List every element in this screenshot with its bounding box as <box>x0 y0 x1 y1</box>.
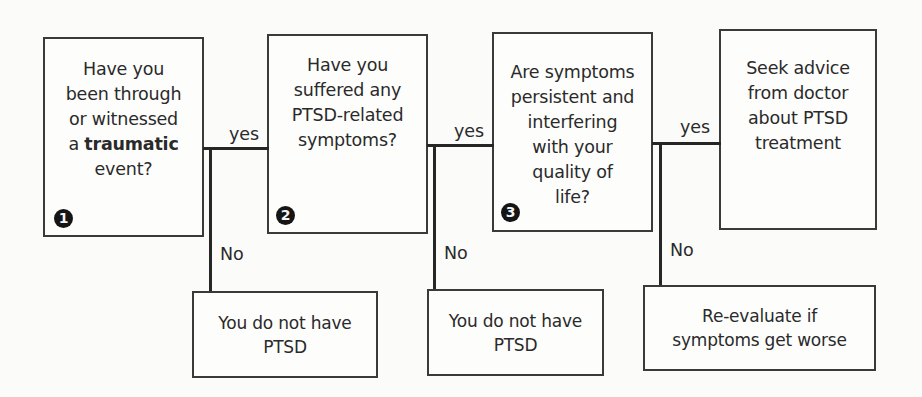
edge-label-yes-2: yes <box>454 121 484 141</box>
no-outcome-box-2: You do not have PTSD <box>427 289 604 376</box>
step-3-line-4: with your <box>510 135 634 160</box>
no-outcome-3-line-2: symptoms get worse <box>672 328 847 352</box>
no-outcome-3-line-1: Re-evaluate if <box>672 304 847 328</box>
no-outcome-box-1: You do not have PTSD <box>192 291 378 378</box>
step-2-number-badge: 2 <box>276 206 295 225</box>
step-2-box: Have you suffered any PTSD-related sympt… <box>267 34 428 234</box>
step-1-box: Have you been through or witnessed a tra… <box>43 37 204 237</box>
outcome-line-2: from doctor <box>746 81 850 106</box>
edge-label-no-3: No <box>670 240 694 260</box>
step-1-prefix: a <box>68 134 84 154</box>
edge-label-no-2: No <box>444 243 468 263</box>
edge-label-no-1: No <box>220 244 244 264</box>
no-outcome-2-line-1: You do not have <box>449 309 582 333</box>
no-outcome-1-line-1: You do not have <box>218 311 351 335</box>
step-3-number-badge: 3 <box>501 203 520 222</box>
connector-no-2-vertical <box>433 144 436 290</box>
connector-yes-1-horizontal <box>203 147 269 150</box>
step-2-line-4: symptoms? <box>292 128 404 153</box>
step-2-line-3: PTSD-related <box>292 103 404 128</box>
step-3-line-1: Are symptoms <box>510 60 634 85</box>
step-1-number-badge: 1 <box>54 209 73 228</box>
step-2-line-1: Have you <box>292 53 404 78</box>
step-3-line-5: quality of <box>510 160 634 185</box>
step-2-line-2: suffered any <box>292 78 404 103</box>
step-3-line-3: interfering <box>510 110 634 135</box>
connector-yes-3-horizontal <box>652 142 721 145</box>
step-2-question: Have you suffered any PTSD-related sympt… <box>292 53 404 153</box>
no-outcome-1-line-2: PTSD <box>218 335 351 359</box>
step-3-line-6: life? <box>510 185 634 210</box>
step-3-line-2: persistent and <box>510 85 634 110</box>
step-1-question: Have you been through or witnessed a tra… <box>66 57 182 182</box>
connector-no-3-vertical <box>659 142 662 286</box>
edge-label-yes-3: yes <box>680 117 710 137</box>
step-1-line-2: been through <box>66 82 182 107</box>
outcome-line-4: treatment <box>746 131 850 156</box>
no-outcome-2-text: You do not have PTSD <box>449 309 582 357</box>
step-1-line-4: a traumatic <box>66 132 182 157</box>
no-outcome-1-text: You do not have PTSD <box>218 311 351 359</box>
outcome-text: Seek advice from doctor about PTSD treat… <box>746 56 850 156</box>
outcome-box-seek-advice: Seek advice from doctor about PTSD treat… <box>719 29 877 230</box>
edge-label-yes-1: yes <box>229 124 259 144</box>
step-1-line-5: event? <box>66 157 182 182</box>
step-3-question: Are symptoms persistent and interfering … <box>510 60 634 210</box>
no-outcome-2-line-2: PTSD <box>449 333 582 357</box>
step-1-line-3: or witnessed <box>66 107 182 132</box>
no-outcome-box-3: Re-evaluate if symptoms get worse <box>643 285 876 371</box>
step-1-line-1: Have you <box>66 57 182 82</box>
outcome-line-3: about PTSD <box>746 106 850 131</box>
emphasis-traumatic: traumatic <box>84 134 178 154</box>
no-outcome-3-text: Re-evaluate if symptoms get worse <box>672 304 847 352</box>
connector-no-1-vertical <box>209 147 212 292</box>
connector-yes-2-horizontal <box>427 144 494 147</box>
outcome-line-1: Seek advice <box>746 56 850 81</box>
step-3-box: Are symptoms persistent and interfering … <box>492 32 653 232</box>
